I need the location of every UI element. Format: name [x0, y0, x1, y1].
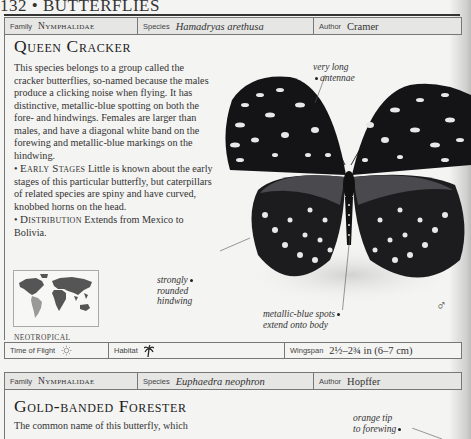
- wingspan-value: 2½–2¾ in (6–7 cm): [329, 345, 412, 356]
- wingspan-label: Wingspan: [290, 346, 323, 355]
- habitat-label: Habitat: [114, 346, 138, 355]
- family-label: Family: [10, 22, 32, 31]
- species-cell: Species Euphaedra neophron: [138, 373, 314, 389]
- annotation-antennae-line1: very long: [313, 62, 355, 73]
- entry1-footer-row: Time of Flight Habitat Wingspan 2½–2¾ in…: [4, 342, 462, 359]
- entry1-left-border: [4, 35, 5, 340]
- distribution-para: • Distribution Extends from Mexico to Bo…: [14, 213, 214, 239]
- author-value: Cramer: [347, 21, 379, 32]
- distribution-map: [13, 270, 99, 327]
- time-of-flight-label: Time of Flight: [10, 346, 55, 355]
- species-label: Species: [143, 22, 170, 31]
- author-cell: Author Hopffer: [314, 373, 461, 389]
- wingspan-cell: Wingspan 2½–2¾ in (6–7 cm): [285, 343, 461, 358]
- annotation-hindwing-line2: rounded: [157, 286, 195, 297]
- annotation-tip-text2: to forewing: [353, 424, 396, 434]
- distribution-heading: Distribution: [20, 213, 82, 225]
- entry1-title: Queen Cracker: [14, 36, 131, 57]
- annotation-hindwing: strongly rounded hindwing: [157, 275, 195, 307]
- annotation-orange-tip: orange tip to forewing: [353, 413, 403, 434]
- annotation-spots-text1: metallic-blue spots: [263, 309, 335, 319]
- family-label: Family: [10, 377, 32, 386]
- male-symbol-icon: ♂: [436, 298, 447, 314]
- family-cell: Family Nymphalidae: [5, 373, 138, 389]
- annotation-spots-line2: extend onto body: [263, 320, 342, 331]
- species-cell: Species Hamadryas arethusa: [138, 18, 314, 34]
- annotation-hindwing-text1: strongly: [157, 275, 188, 285]
- annotation-antennae-line2: antennae: [313, 73, 355, 84]
- family-value: Nymphalidae: [38, 21, 94, 31]
- annotation-hindwing-line3: hindwing: [157, 296, 195, 307]
- annotation-tip-line2: to forewing: [353, 424, 403, 435]
- author-label: Author: [319, 377, 341, 386]
- author-cell: Author Cramer: [314, 18, 461, 34]
- annotation-antennae: very long antennae: [313, 62, 355, 83]
- entry2-header-row: Family Nymphalidae Species Euphaedra neo…: [4, 372, 462, 390]
- author-label: Author: [319, 22, 341, 31]
- entry1-description: This species belongs to a group called t…: [14, 62, 214, 162]
- habitat-cell: Habitat: [109, 343, 285, 358]
- header-rule: [4, 14, 460, 16]
- early-stages-heading: Early Stages: [20, 162, 85, 174]
- family-value: Nymphalidae: [38, 376, 94, 386]
- annotation-hindwing-line1: strongly: [157, 275, 195, 286]
- species-value: Euphaedra neophron: [176, 376, 265, 387]
- entry1-body: This species belongs to a group called t…: [14, 62, 214, 239]
- entry1-header-row: Family Nymphalidae Species Hamadryas are…: [4, 17, 462, 35]
- entry2-title: Gold-banded Forester: [14, 396, 187, 417]
- annotation-tip-line1: orange tip: [353, 413, 403, 424]
- species-label: Species: [143, 377, 170, 386]
- queen-cracker-butterfly-illustration: [220, 75, 471, 310]
- world-map-icon: [14, 271, 98, 326]
- annotation-tip-leader-line: [412, 428, 452, 439]
- family-cell: Family Nymphalidae: [5, 18, 138, 34]
- annotation-spots-line1: metallic-blue spots: [263, 309, 342, 320]
- entry2-description: The common name of this butterfly, which: [14, 420, 274, 433]
- species-value: Hamadryas arethusa: [176, 21, 264, 32]
- author-value: Hopffer: [347, 376, 380, 387]
- entry2-left-border: [4, 390, 5, 439]
- map-region-label: NEOTROPICAL: [14, 333, 70, 342]
- palm-tree-icon: [144, 345, 154, 357]
- time-of-flight-cell: Time of Flight: [5, 343, 109, 358]
- early-stages-para: • Early Stages Little is known about the…: [14, 162, 214, 213]
- annotation-spots: metallic-blue spots extend onto body: [263, 309, 342, 330]
- annotation-antennae-text2: antennae: [320, 73, 355, 83]
- sun-icon: [61, 345, 72, 356]
